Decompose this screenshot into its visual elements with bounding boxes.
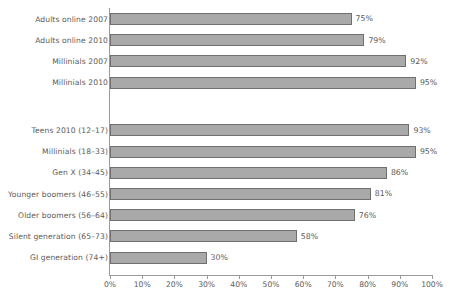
bar (110, 13, 352, 25)
category-label-column: Adults online 2007Adults online 2010Mill… (0, 0, 108, 300)
bar (110, 230, 297, 242)
bar-value-label: 75% (356, 15, 373, 23)
x-tick (432, 275, 433, 279)
bar (110, 124, 409, 136)
category-label: Millinials 2010 (0, 79, 108, 87)
category-label: Adults online 2010 (0, 37, 108, 45)
bar-value-label: 76% (359, 212, 376, 220)
x-tick-label: 20% (166, 281, 183, 289)
bar (110, 77, 416, 89)
x-tick-label: 70% (327, 281, 344, 289)
x-tick-label: 0% (104, 281, 116, 289)
category-label: Teens 2010 (12–17) (0, 127, 108, 135)
bar-value-label: 95% (420, 79, 437, 87)
bar (110, 34, 364, 46)
plot-area: 0%10%20%30%40%50%60%70%80%90%100% 75%79%… (110, 0, 432, 300)
bar-value-label: 92% (410, 58, 427, 66)
x-tick (335, 275, 336, 279)
x-tick-label: 80% (359, 281, 376, 289)
x-tick-label: 50% (263, 281, 280, 289)
bar-chart: Adults online 2007Adults online 2010Mill… (0, 0, 450, 300)
x-tick (303, 275, 304, 279)
x-tick (174, 275, 175, 279)
x-tick (271, 275, 272, 279)
category-label: Younger boomers (46–55) (0, 191, 108, 199)
bar (110, 167, 387, 179)
bar (110, 146, 416, 158)
x-tick (110, 275, 111, 279)
x-tick-label: 10% (134, 281, 151, 289)
x-tick-label: 90% (391, 281, 408, 289)
bar-value-label: 95% (420, 148, 437, 156)
bar (110, 209, 355, 221)
bar-value-label: 79% (368, 37, 385, 45)
bar (110, 188, 371, 200)
x-tick-label: 40% (230, 281, 247, 289)
bar-value-label: 30% (211, 254, 228, 262)
x-tick (207, 275, 208, 279)
bar-value-label: 86% (391, 169, 408, 177)
bar (110, 55, 406, 67)
x-tick (142, 275, 143, 279)
category-label: Older boomers (56–64) (0, 212, 108, 220)
x-tick (239, 275, 240, 279)
bar-value-label: 58% (301, 233, 318, 241)
x-tick (400, 275, 401, 279)
category-label: Silent generation (65–73) (0, 233, 108, 241)
category-label: Gen X (34–45) (0, 169, 108, 177)
x-tick (368, 275, 369, 279)
category-label: GI generation (74+) (0, 254, 108, 262)
bar-value-label: 93% (413, 127, 430, 135)
bar-value-label: 81% (375, 190, 392, 198)
x-tick-label: 60% (295, 281, 312, 289)
category-label: Millinials 2007 (0, 58, 108, 66)
x-tick-label: 100% (421, 281, 443, 289)
x-tick-label: 30% (198, 281, 215, 289)
category-label: Adults online 2007 (0, 16, 108, 24)
bar (110, 252, 207, 264)
category-label: Millinials (18–33) (0, 148, 108, 156)
